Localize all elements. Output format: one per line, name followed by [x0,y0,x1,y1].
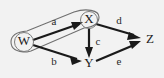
node-y: Y [84,55,94,70]
edge-e-line [96,45,134,61]
edge-b: b [33,45,82,67]
edge-c: c [85,28,101,58]
directed-graph: a b c d e W [0,0,164,78]
node-x: X [81,11,98,29]
edge-label-b: b [51,55,57,67]
edge-e-arrowhead [129,41,141,49]
edge-label-c: c [96,35,101,47]
edge-e: e [96,41,141,67]
edge-d-line [96,24,134,35]
node-w: W [15,33,34,52]
edge-label-d: d [116,14,122,26]
node-z: Z [146,31,154,46]
node-z-label: Z [146,31,154,46]
node-y-label: Y [84,55,94,70]
edge-label-e: e [117,55,122,67]
edge-label-a: a [52,15,57,27]
node-w-label: W [18,33,31,48]
node-x-label: X [84,11,94,26]
edge-d-arrowhead [127,32,141,40]
edge-d: d [96,14,141,40]
diagram-canvas: a b c d e W [0,0,164,78]
